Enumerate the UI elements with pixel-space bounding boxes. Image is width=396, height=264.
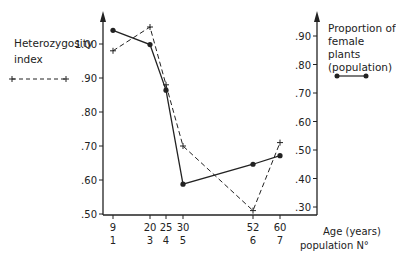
x-tick-population: 1: [110, 235, 116, 246]
x-tick-population: 4: [163, 235, 169, 246]
legend-heterozygosity-sample: [9, 76, 69, 82]
legend-heterozygosity-line1: Heterozygosity: [14, 35, 93, 51]
legend-female-line3: (population): [328, 61, 396, 74]
x-tick-age: 20: [144, 222, 157, 233]
x-axis-ticks: 91203254305526607: [110, 215, 287, 246]
dot-marker-icon: [163, 88, 168, 93]
left-tick-label: .80: [81, 107, 97, 118]
x-axis-label-age: Age (years): [323, 226, 381, 237]
legend-female-line1: Proportion of: [328, 22, 396, 35]
x-tick-age: 52: [247, 222, 260, 233]
x-tick-age: 25: [160, 222, 173, 233]
heterozygosity-series: [110, 24, 283, 214]
right-tick-label: .50: [295, 145, 311, 156]
dot-marker-icon: [180, 182, 185, 187]
left-tick-label: .60: [81, 175, 97, 186]
dot-marker-icon: [110, 28, 115, 33]
legend-heterozygosity: Heterozygosity index: [14, 35, 93, 67]
plus-marker-icon: [277, 140, 283, 146]
dot-marker-icon: [147, 42, 152, 47]
x-tick-age: 30: [177, 222, 190, 233]
dot-marker-icon: [277, 153, 282, 158]
female-proportion-series: [110, 28, 282, 187]
left-tick-label: .70: [81, 141, 97, 152]
right-tick-label: .90: [295, 31, 311, 42]
x-tick-population: 5: [180, 235, 186, 246]
legend-female-sample: [335, 74, 369, 79]
x-tick-population: 6: [250, 235, 256, 246]
right-tick-label: .60: [295, 117, 311, 128]
x-tick-population: 7: [277, 235, 283, 246]
left-axis-arrow-icon: [100, 11, 106, 22]
x-tick-age: 60: [274, 222, 287, 233]
x-tick-population: 3: [147, 235, 153, 246]
plus-marker-icon: [147, 24, 153, 30]
right-tick-label: .30: [295, 202, 311, 213]
right-axis-arrow-icon: [314, 11, 320, 22]
dot-marker-icon: [250, 162, 255, 167]
legend-female-line2: female plants: [328, 35, 396, 61]
right-axis-ticks: .30.40.50.60.70.80.90: [295, 31, 317, 213]
left-tick-label: .50: [81, 209, 97, 220]
right-tick-label: .70: [295, 88, 311, 99]
plus-marker-icon: [110, 48, 116, 54]
right-tick-label: .40: [295, 174, 311, 185]
legend-female-proportion: Proportion of female plants (population): [328, 22, 396, 74]
x-tick-age: 9: [110, 222, 116, 233]
left-tick-label: .90: [81, 73, 97, 84]
x-axis-label-population: population N°: [300, 240, 369, 251]
legend-heterozygosity-line2: index: [14, 51, 93, 67]
right-tick-label: .80: [295, 60, 311, 71]
